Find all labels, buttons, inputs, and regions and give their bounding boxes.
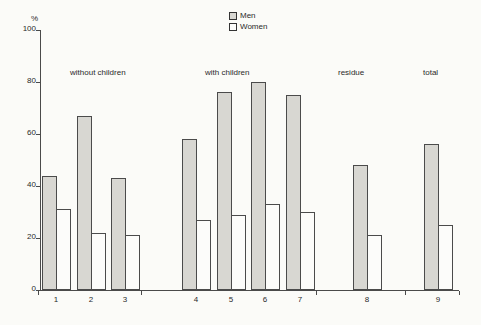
bar-men-6 xyxy=(251,82,266,290)
bar-men-4 xyxy=(182,139,197,290)
y-tick-label-40: 40 xyxy=(12,180,36,190)
legend-item-women: Women xyxy=(229,21,267,32)
x-category-label-5: 5 xyxy=(221,295,241,305)
men-swatch-icon xyxy=(229,12,237,20)
bar-men-1 xyxy=(42,176,57,290)
y-tick-label-0: 0 xyxy=(12,284,36,294)
x-axis-tick-2 xyxy=(316,291,317,295)
x-category-label-2: 2 xyxy=(81,295,101,305)
y-tick-100 xyxy=(36,30,40,31)
group-label-1: without children xyxy=(70,68,126,78)
x-category-label-1: 1 xyxy=(46,295,66,305)
x-axis-tick-0 xyxy=(38,291,39,295)
bar-women-5 xyxy=(231,215,246,290)
bar-men-9 xyxy=(424,144,439,290)
x-axis-line xyxy=(38,290,459,291)
x-axis-tick-4 xyxy=(459,291,460,295)
bar-women-7 xyxy=(300,212,315,290)
x-category-label-3: 3 xyxy=(115,295,135,305)
y-axis-line xyxy=(40,30,41,291)
y-tick-60 xyxy=(36,134,40,135)
x-category-label-4: 4 xyxy=(186,295,206,305)
bar-chart: % Men Women 020406080100123456789without… xyxy=(0,0,481,325)
group-label-3: residue xyxy=(338,68,364,78)
bar-men-3 xyxy=(111,178,126,290)
y-tick-label-100: 100 xyxy=(12,24,36,34)
y-tick-20 xyxy=(36,238,40,239)
bar-women-9 xyxy=(438,225,453,290)
legend-label-men: Men xyxy=(240,11,256,20)
bar-men-2 xyxy=(77,116,92,290)
bar-women-2 xyxy=(91,233,106,290)
legend-label-women: Women xyxy=(240,22,267,31)
y-tick-40 xyxy=(36,186,40,187)
bar-women-1 xyxy=(56,209,71,290)
legend: Men Women xyxy=(229,10,267,32)
bar-men-5 xyxy=(217,92,232,290)
bar-women-6 xyxy=(265,204,280,290)
bar-men-7 xyxy=(286,95,301,290)
y-axis-unit-label: % xyxy=(31,14,38,23)
women-swatch-icon xyxy=(229,23,237,31)
bar-women-8 xyxy=(367,235,382,290)
bar-women-3 xyxy=(125,235,140,290)
group-label-4: total xyxy=(423,68,438,78)
x-axis-tick-1 xyxy=(141,291,142,295)
group-label-2: with children xyxy=(205,68,249,78)
x-category-label-7: 7 xyxy=(290,295,310,305)
y-tick-80 xyxy=(36,82,40,83)
legend-item-men: Men xyxy=(229,10,267,21)
x-category-label-8: 8 xyxy=(357,295,377,305)
y-tick-label-60: 60 xyxy=(12,128,36,138)
y-tick-label-80: 80 xyxy=(12,76,36,86)
bar-women-4 xyxy=(196,220,211,290)
x-category-label-6: 6 xyxy=(255,295,275,305)
x-axis-tick-3 xyxy=(405,291,406,295)
bar-men-8 xyxy=(353,165,368,290)
x-category-label-9: 9 xyxy=(428,295,448,305)
y-tick-label-20: 20 xyxy=(12,232,36,242)
